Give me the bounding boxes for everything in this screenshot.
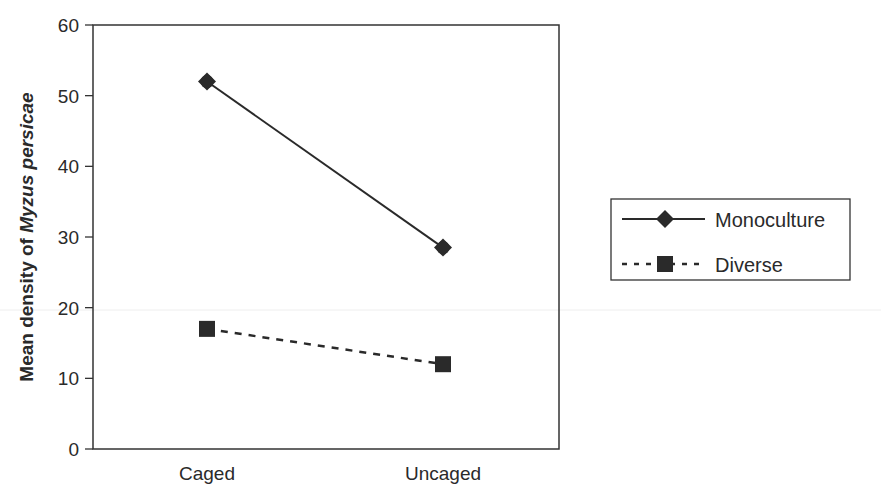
- marker-core: [201, 75, 214, 88]
- square-marker-icon: [657, 256, 673, 272]
- y-tick-label: 50: [58, 86, 79, 107]
- y-tick-label: 10: [58, 368, 79, 389]
- marker-core: [437, 241, 450, 254]
- legend-label: Monoculture: [715, 209, 825, 231]
- y-tick-label: 40: [58, 156, 79, 177]
- square-marker-icon: [435, 356, 451, 372]
- series-line: [207, 82, 443, 248]
- y-tick-label: 0: [68, 439, 79, 460]
- x-axis: CagedUncaged: [179, 463, 481, 484]
- square-marker-icon: [199, 321, 215, 337]
- plot-frame: [93, 25, 559, 449]
- y-axis: 0102030405060: [58, 15, 93, 460]
- series-layer: [198, 73, 452, 373]
- series-line: [207, 329, 443, 364]
- x-tick-label: Uncaged: [405, 463, 481, 484]
- x-tick-label: Caged: [179, 463, 235, 484]
- chart-canvas: 0102030405060 CagedUncaged Mean density …: [0, 0, 881, 504]
- y-tick-label: 30: [58, 227, 79, 248]
- y-axis-label: Mean density of Myzus persicae: [16, 92, 37, 382]
- y-tick-label: 60: [58, 15, 79, 36]
- legend-label: Diverse: [715, 254, 783, 276]
- series-diverse: [199, 321, 451, 372]
- y-tick-label: 20: [58, 298, 79, 319]
- series-monoculture: [198, 73, 452, 257]
- legend: Monoculture Diverse: [611, 199, 850, 280]
